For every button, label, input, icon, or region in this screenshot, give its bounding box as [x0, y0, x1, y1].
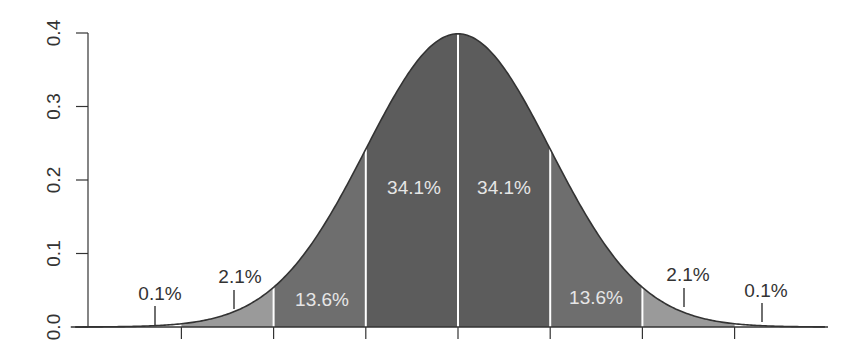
label-mid-right: 13.6%	[569, 287, 623, 308]
y-tick-label: 0.3	[43, 93, 64, 119]
y-tick-label: 0.4	[43, 19, 64, 46]
label-tail-right: 2.1%	[666, 264, 709, 285]
label-outer-right: 0.1%	[744, 280, 787, 301]
y-tick-label: 0.0	[43, 314, 64, 340]
x-axis-ticks	[181, 327, 734, 339]
label-outer-left: 0.1%	[138, 283, 181, 304]
y-axis-ticks: 0.00.10.20.30.4	[43, 19, 88, 340]
label-mid-left: 13.6%	[295, 289, 349, 310]
normal-distribution-chart: 0.00.10.20.30.4 0.1% 2.1% 13.6% 34.1% 34…	[0, 0, 860, 360]
y-tick-label: 0.1	[43, 240, 64, 266]
y-tick-label: 0.2	[43, 167, 64, 193]
label-center-left: 34.1%	[387, 177, 441, 198]
band-1	[181, 287, 273, 327]
label-center-right: 34.1%	[477, 177, 531, 198]
label-tail-left: 2.1%	[218, 266, 261, 287]
band-6	[642, 287, 734, 327]
